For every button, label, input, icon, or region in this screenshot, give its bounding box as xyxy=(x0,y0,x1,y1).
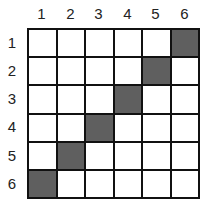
column-label: 5 xyxy=(141,5,170,22)
empty-cell xyxy=(85,142,114,170)
empty-cell xyxy=(114,29,143,57)
empty-cell xyxy=(142,29,171,57)
filled-cell xyxy=(57,142,86,170)
column-label: 3 xyxy=(84,5,113,22)
empty-cell xyxy=(57,170,86,198)
empty-cell xyxy=(171,85,200,113)
empty-cell xyxy=(28,114,57,142)
empty-cell xyxy=(142,170,171,198)
empty-cell xyxy=(142,114,171,142)
empty-cell xyxy=(171,114,200,142)
row-label: 6 xyxy=(4,175,20,192)
column-label: 1 xyxy=(27,5,56,22)
empty-cell xyxy=(85,85,114,113)
empty-cell xyxy=(57,85,86,113)
filled-cell xyxy=(28,170,57,198)
empty-cell xyxy=(28,85,57,113)
empty-cell xyxy=(114,142,143,170)
column-label: 4 xyxy=(113,5,142,22)
empty-cell xyxy=(28,142,57,170)
empty-cell xyxy=(114,114,143,142)
empty-cell xyxy=(28,57,57,85)
filled-cell xyxy=(142,57,171,85)
empty-cell xyxy=(57,57,86,85)
row-label: 5 xyxy=(4,147,20,164)
empty-cell xyxy=(85,170,114,198)
filled-cell xyxy=(85,114,114,142)
empty-cell xyxy=(171,170,200,198)
row-label: 2 xyxy=(4,62,20,79)
row-label: 1 xyxy=(4,34,20,51)
empty-cell xyxy=(171,57,200,85)
empty-cell xyxy=(142,142,171,170)
empty-cell xyxy=(28,29,57,57)
empty-cell xyxy=(114,170,143,198)
column-label: 2 xyxy=(56,5,85,22)
empty-cell xyxy=(57,29,86,57)
row-label: 4 xyxy=(4,118,20,135)
filled-cell xyxy=(171,29,200,57)
empty-cell xyxy=(114,57,143,85)
filled-cell xyxy=(114,85,143,113)
empty-cell xyxy=(171,142,200,170)
matrix-grid xyxy=(27,28,200,199)
row-label: 3 xyxy=(4,90,20,107)
column-label: 6 xyxy=(170,5,199,22)
empty-cell xyxy=(57,114,86,142)
empty-cell xyxy=(142,85,171,113)
empty-cell xyxy=(85,29,114,57)
empty-cell xyxy=(85,57,114,85)
